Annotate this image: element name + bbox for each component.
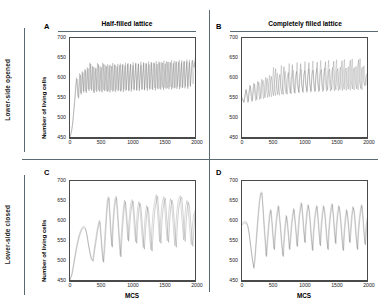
panel-b-ytick-650: 650 <box>222 55 238 60</box>
panel-d-ytick-700: 700 <box>222 178 238 183</box>
panel-d-xtick-0: 0 <box>232 283 252 288</box>
panel-c-ytick-700: 700 <box>50 178 66 183</box>
panel-a-ytick-650: 650 <box>50 55 66 60</box>
panel-d-ytick-650: 650 <box>222 198 238 203</box>
panel-c-xtick-1000: 1000 <box>123 283 143 288</box>
row-label-opened-text: Lower-side opened <box>4 59 11 121</box>
panel-a-ytick-550: 550 <box>50 95 66 100</box>
panel-d-ytick-500: 500 <box>222 258 238 263</box>
panel-c-ytick-650: 650 <box>50 198 66 203</box>
row-label-opened: Lower-side opened <box>4 30 30 150</box>
panel-c-ytick-550: 550 <box>50 238 66 243</box>
panel-d-xlabel: MCS <box>274 292 334 299</box>
panel-d-xtick-2000: 2000 <box>359 283 379 288</box>
panel-a-xtick-0: 0 <box>60 140 80 145</box>
panel-b-xtick-1000: 1000 <box>295 140 315 145</box>
row-rule-closed <box>24 175 25 295</box>
panel-d-ytick-550: 550 <box>222 238 238 243</box>
panel-a-ylabel: Number of living cells <box>41 55 47 139</box>
panel-b-title: Completely filled lattice <box>235 20 375 27</box>
panel-c-xtick-0: 0 <box>60 283 80 288</box>
panel-a-ytick-700: 700 <box>50 35 66 40</box>
panel-d-xtick-1000: 1000 <box>295 283 315 288</box>
panel-b-ytick-700: 700 <box>222 35 238 40</box>
panel-a-title: Half-filled lattice <box>62 20 192 27</box>
panel-c-plot[interactable] <box>69 180 196 281</box>
panel-b-ytick-600: 600 <box>222 75 238 80</box>
panel-a-ytick-600: 600 <box>50 75 66 80</box>
panel-b-letter: B <box>216 22 221 31</box>
panel-a-xtick-1000: 1000 <box>123 140 143 145</box>
panel-d-xtick-500: 500 <box>263 283 283 288</box>
panel-a-xtick-1500: 1500 <box>155 140 175 145</box>
panel-a-letter: A <box>44 22 49 31</box>
panel-c-ytick-500: 500 <box>50 258 66 263</box>
panel-c-xlabel: MCS <box>102 292 162 299</box>
panel-c-xtick-500: 500 <box>91 283 111 288</box>
panel-b-xtick-500: 500 <box>263 140 283 145</box>
panel-c-xtick-2000: 2000 <box>187 283 207 288</box>
panel-c-letter: C <box>44 168 49 177</box>
panel-d-letter: D <box>216 168 221 177</box>
row-divider <box>22 159 378 160</box>
panel-d-plot[interactable] <box>241 180 368 281</box>
panel-d-xtick-1500: 1500 <box>327 283 347 288</box>
panel-b-plot[interactable] <box>241 37 368 138</box>
panel-a-plot[interactable] <box>69 37 196 138</box>
panel-b-xtick-1500: 1500 <box>327 140 347 145</box>
panel-b-ytick-550: 550 <box>222 95 238 100</box>
panel-b-ytick-500: 500 <box>222 115 238 120</box>
panel-a-title-rule <box>58 31 196 32</box>
panel-c-xtick-1500: 1500 <box>155 283 175 288</box>
panel-a-ytick-500: 500 <box>50 115 66 120</box>
column-divider <box>209 10 210 292</box>
panel-c-ylabel: Number of living cells <box>41 198 47 282</box>
panel-a-xtick-2000: 2000 <box>187 140 207 145</box>
row-label-closed: Lower-side closed <box>4 180 30 290</box>
panel-d-ytick-600: 600 <box>222 218 238 223</box>
row-rule-opened <box>24 28 25 152</box>
panel-b-xtick-2000: 2000 <box>359 140 379 145</box>
panel-b-title-rule <box>230 31 378 32</box>
panel-c-ytick-600: 600 <box>50 218 66 223</box>
panel-b-xtick-0: 0 <box>232 140 252 145</box>
row-label-closed-text: Lower-side closed <box>4 205 11 264</box>
figure-root: Lower-side opened Lower-side closed A Ha… <box>0 0 384 306</box>
panel-a-xtick-500: 500 <box>91 140 111 145</box>
